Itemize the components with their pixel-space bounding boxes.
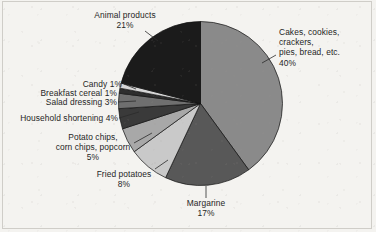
slice-label-margarine: Margarine 17%: [160, 198, 252, 218]
slice-label-breakfast-cereal: Breakfast cereal 1%: [16, 88, 117, 98]
slice-label-fried-potatoes: Fried potatoes 8%: [90, 169, 158, 189]
slice-label-salad-dressing: Salad dressing 3%: [22, 97, 117, 107]
slice-label-cakes: Cakes, cookies, crackers, pies, bread, e…: [279, 27, 374, 68]
slice-label-candy: Candy 1%: [52, 79, 122, 89]
slice-label-animal-products: Animal products 21%: [85, 10, 165, 30]
pie-chart-figure: Cakes, cookies, crackers, pies, bread, e…: [0, 0, 376, 232]
slice-label-household-shortening: Household shortening 4%: [8, 113, 118, 123]
pie-slices-group: [118, 22, 282, 186]
slice-label-potato-chips: Potato chips, corn chips, popcorn 5%: [52, 132, 134, 163]
